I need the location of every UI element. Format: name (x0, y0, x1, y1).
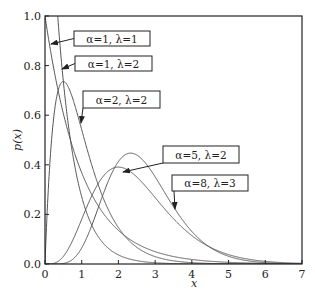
y-tick-label: 1.0 (24, 10, 42, 23)
x-tick-label: 1 (78, 268, 85, 281)
plot-frame (45, 16, 302, 264)
series-line-3 (45, 82, 302, 264)
annotation-arrow (51, 39, 74, 45)
y-tick-label: 0.2 (24, 208, 42, 221)
y-axis-label: p(x) (11, 129, 24, 151)
y-tick-label: 0.6 (24, 109, 42, 122)
annotation-label: α=8, λ=3 (184, 177, 235, 189)
annotation-label: α=1, λ=1 (86, 33, 137, 45)
annotation-arrow (174, 191, 175, 209)
series-line-5 (45, 153, 302, 264)
x-tick-label: 5 (225, 268, 232, 281)
annotation-arrow (123, 163, 163, 172)
annotation-arrow (62, 64, 75, 70)
series-line-1 (45, 16, 302, 264)
x-tick-label: 6 (262, 268, 269, 281)
x-tick-label: 3 (152, 268, 159, 281)
x-tick-label: 0 (42, 268, 49, 281)
x-tick-label: 7 (299, 268, 306, 281)
annotation-label: α=5, λ=2 (175, 149, 226, 161)
annotation-label: α=2, λ=2 (96, 94, 147, 106)
curve-annotations: α=1, λ=1α=1, λ=2α=2, λ=2α=5, λ=2α=8, λ=3 (51, 31, 248, 209)
y-tick-label: 0.0 (24, 258, 42, 271)
y-tick-label: 0.4 (24, 159, 42, 172)
x-tick-label: 2 (115, 268, 122, 281)
annotation-label: α=1, λ=2 (88, 58, 139, 70)
annotation-arrow (81, 108, 83, 123)
y-tick-label: 0.8 (24, 60, 42, 73)
gamma-distribution-chart: 01234567 0.00.20.40.60.81.0 x p(x) α=1, … (0, 0, 315, 292)
x-axis-label: x (191, 277, 198, 290)
